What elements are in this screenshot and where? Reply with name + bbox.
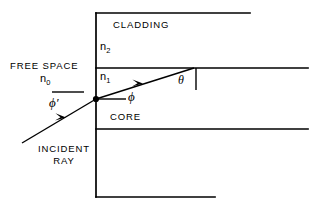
refractive-index-n2-label: n2	[100, 40, 110, 55]
incident-ray-label-line1: INCIDENT	[38, 143, 90, 154]
fiber-refraction-diagram: CLADDING CORE FREE SPACE n0 n2 n1 INCIDE…	[0, 0, 319, 210]
cladding-label: CLADDING	[113, 19, 169, 31]
diagram-canvas	[0, 0, 319, 210]
incident-ray-label-line2: RAY	[53, 155, 75, 166]
incident-ray	[22, 99, 96, 143]
angle-theta-label: θ	[178, 73, 184, 88]
n2-subscript: 2	[106, 46, 110, 55]
refractive-index-n0-label: n0	[40, 72, 50, 87]
incidence-point-dot	[93, 96, 99, 102]
incident-ray-label: INCIDENTRAY	[27, 143, 101, 167]
n0-subscript: 0	[46, 78, 50, 87]
free-space-label: FREE SPACE	[10, 60, 78, 72]
n1-subscript: 1	[106, 76, 110, 85]
core-label: CORE	[110, 111, 141, 123]
angle-phi-prime-label: ϕ′	[49, 95, 59, 111]
refractive-index-n1-label: n1	[100, 70, 110, 85]
angle-phi-label: ϕ	[128, 89, 135, 105]
